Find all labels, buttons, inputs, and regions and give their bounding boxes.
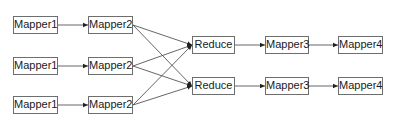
edge-arrow-m2b-to-ra (133, 45, 192, 66)
edge-arrow-m2b-to-rb (133, 66, 192, 86)
node-label: Mapper1 (14, 98, 57, 110)
node-label: Mapper4 (339, 79, 382, 91)
node-reduce-2: Reduce (192, 77, 235, 95)
node-label: Reduce (195, 38, 233, 50)
node-label: Mapper2 (89, 18, 132, 30)
node-mapper2-row2: Mapper2 (88, 57, 133, 75)
node-mapper3-1: Mapper3 (265, 36, 309, 54)
node-mapper4-2: Mapper4 (338, 77, 383, 95)
node-reduce-1: Reduce (192, 36, 235, 54)
node-mapper3-2: Mapper3 (265, 77, 309, 95)
edge-arrow-m2c-to-ra (133, 45, 192, 105)
node-mapper2-row1: Mapper2 (88, 16, 133, 34)
node-label: Mapper3 (266, 38, 309, 50)
node-mapper1-row1: Mapper1 (13, 16, 58, 34)
node-mapper1-row3: Mapper1 (13, 96, 58, 114)
edges-layer (0, 0, 395, 121)
node-mapper1-row2: Mapper1 (13, 57, 58, 75)
mapreduce-flow-diagram: Mapper1 Mapper1 Mapper1 Mapper2 Mapper2 … (0, 0, 395, 121)
node-label: Mapper3 (266, 79, 309, 91)
node-label: Mapper1 (14, 18, 57, 30)
node-label: Mapper2 (89, 98, 132, 110)
node-label: Mapper4 (339, 38, 382, 50)
node-mapper4-1: Mapper4 (338, 36, 383, 54)
node-label: Reduce (195, 79, 233, 91)
node-label: Mapper2 (89, 59, 132, 71)
node-mapper2-row3: Mapper2 (88, 96, 133, 114)
node-label: Mapper1 (14, 59, 57, 71)
edge-arrow-m2a-to-ra (133, 25, 192, 45)
